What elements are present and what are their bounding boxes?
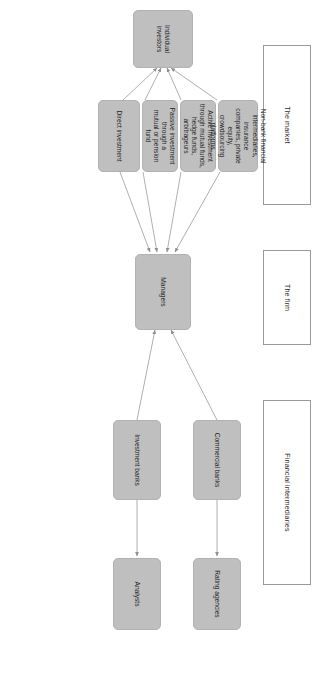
node-direct-investment-label: Direct investment (115, 104, 123, 168)
node-analysts[interactable]: Analysts (113, 558, 161, 630)
node-managers[interactable]: Managers (135, 254, 191, 330)
node-analysts-label: Analysts (133, 562, 141, 626)
node-investment-banks[interactable]: Investment banks (113, 420, 161, 500)
edge-active-to-managers (167, 172, 181, 252)
edge-passive-to-individual (145, 68, 161, 100)
node-individual-investors[interactable]: Individual investors (133, 10, 193, 68)
node-passive-investment-label: Passive investment through a mutual or p… (144, 104, 177, 168)
node-rating-agencies[interactable]: Rating agencies (193, 558, 241, 630)
edge-nonbank-to-individual (171, 68, 217, 100)
node-direct-investment[interactable]: Direct investment (98, 100, 140, 172)
node-investment-banks-label: Investment banks (133, 424, 141, 496)
section-header-firm-label: The firm (283, 284, 291, 311)
edge-investment-banks-to-managers (137, 330, 155, 420)
node-individual-investors-label: Individual investors (155, 14, 171, 64)
node-commercial-banks-label: Commercial banks (213, 424, 221, 496)
node-non-bank-intermediaries[interactable]: Non-bank financial intermediaries, insur… (218, 100, 258, 172)
section-header-market-label: The market (283, 106, 291, 143)
node-commercial-banks[interactable]: Commercial banks (193, 420, 241, 500)
edge-direct-to-individual (123, 68, 157, 100)
node-rating-agencies-label: Rating agencies (213, 562, 221, 626)
node-passive-investment[interactable]: Passive investment through a mutual or p… (142, 100, 178, 172)
section-header-intermediaries: Financial intermediaries (263, 400, 311, 585)
edge-passive-to-managers (143, 172, 157, 252)
edge-nonbank-to-managers (175, 172, 220, 252)
node-managers-label: Managers (159, 258, 167, 326)
edge-direct-to-managers (120, 172, 150, 252)
node-non-bank-intermediaries-label: Non-bank financial intermediaries, insur… (209, 104, 267, 168)
section-header-intermediaries-label: Financial intermediaries (283, 453, 291, 531)
section-header-market: The market (263, 45, 311, 205)
edge-commercial-banks-to-managers (171, 330, 217, 420)
section-header-firm: The firm (263, 250, 311, 345)
diagram-canvas: The market The firm Financial intermedia… (0, 0, 333, 677)
edge-active-to-individual (167, 68, 181, 100)
